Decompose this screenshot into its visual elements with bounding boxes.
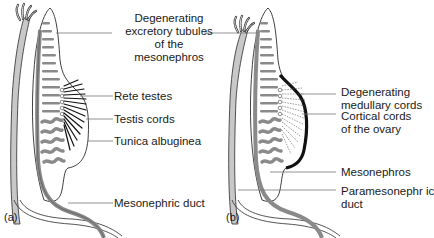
label-paramesonephric-duct: Paramesonephr ic duct — [341, 185, 434, 211]
label-line: Degenerating — [341, 86, 422, 99]
paramesonephric-duct-b — [229, 30, 248, 224]
label-cortical-cords: Cortical cords of the ovary — [341, 110, 411, 136]
label-rete-testes: Rete testes — [114, 90, 172, 103]
label-line: mesonephros — [113, 51, 225, 64]
label-line: excretory tubules — [113, 25, 225, 38]
label-line: Cortical cords — [341, 110, 411, 123]
paramesonephric-duct-a — [11, 18, 30, 224]
panel-a-testis — [11, 4, 122, 238]
label-testis-cords: Testis cords — [114, 113, 175, 126]
label-line: Degenerating — [113, 12, 225, 25]
label-line: of the — [113, 38, 225, 51]
label-mesonephros: Mesonephros — [341, 166, 411, 179]
label-degenerating-medullary-cords: Degenerating medullary cords — [341, 86, 422, 112]
label-degenerating-excretory-tubules: Degenerating excretory tubules of the me… — [113, 12, 225, 64]
panel-tag-b: (b) — [226, 211, 239, 223]
label-mesonephric-duct: Mesonephric duct — [114, 197, 205, 210]
label-line: duct — [341, 198, 434, 211]
panel-tag-a: (a) — [4, 211, 17, 223]
label-line: Paramesonephr ic — [341, 185, 434, 198]
panel-tag-text: (b) — [226, 211, 239, 223]
label-tunica-albuginea: Tunica albuginea — [114, 135, 201, 148]
panel-tag-text: (a) — [4, 211, 17, 223]
label-line: of the ovary — [341, 123, 411, 136]
